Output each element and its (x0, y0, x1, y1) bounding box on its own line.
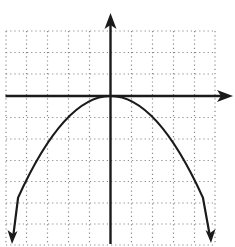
curve-arrow-down-left-icon (8, 230, 18, 244)
curve-arrow-down-right-icon (206, 229, 216, 243)
parabola-graph (0, 0, 235, 247)
y-axis (105, 13, 117, 244)
